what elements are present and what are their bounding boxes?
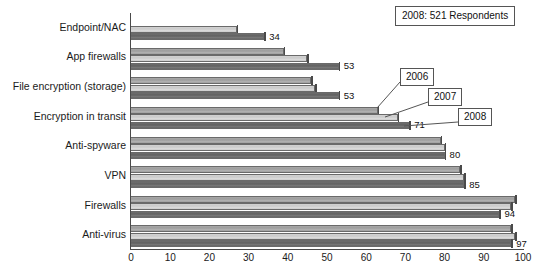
bar-row: 97 [131, 240, 524, 247]
category-axis-labels: Endpoint/NACApp firewallsFile encryption… [0, 13, 126, 250]
bar-row [131, 48, 524, 55]
bar-2007-firewalls [131, 203, 511, 210]
bar-value-label: 85 [469, 179, 480, 190]
x-tick-label: 70 [400, 252, 411, 263]
bar-value-label: 53 [344, 60, 355, 71]
respondents-title-box: 2008: 521 Respondents [395, 6, 515, 26]
bar-row [131, 26, 524, 33]
bar-row [131, 233, 524, 240]
category-label: Firewalls [0, 200, 126, 211]
bar-value-label: 34 [269, 31, 280, 42]
x-tick-label: 40 [282, 252, 293, 263]
bar-chart: Endpoint/NACApp firewallsFile encryption… [0, 0, 555, 266]
bar-row [131, 77, 524, 84]
x-tick-label: 10 [165, 252, 176, 263]
x-tick-label: 30 [243, 252, 254, 263]
bar-row: 34 [131, 33, 524, 40]
x-tick-label: 50 [321, 252, 332, 263]
x-tick-label: 20 [204, 252, 215, 263]
bar-row [131, 203, 524, 210]
bar-end-cap [499, 210, 501, 219]
bar-2007-app-firewalls [131, 55, 307, 62]
bar-2008-firewalls [131, 211, 499, 218]
bar-2008-endpoint-nac [131, 33, 264, 40]
x-tick-label: 80 [439, 252, 450, 263]
bar-value-label: 94 [504, 208, 515, 219]
bar-2008-app-firewalls [131, 63, 339, 70]
category-label: App firewalls [0, 51, 126, 62]
bar-2008-vpn [131, 181, 464, 188]
bar-2006-encryption-in-transit [131, 107, 378, 114]
bar-row [131, 225, 524, 232]
bar-2007-file-encryption-storage [131, 85, 315, 92]
callout-2008: 2008 [458, 108, 492, 126]
bar-end-cap [511, 239, 513, 248]
bar-2006-vpn [131, 166, 460, 173]
bar-2007-encryption-in-transit [131, 114, 398, 121]
bar-2006-anti-spyware [131, 137, 441, 144]
x-tick-label: 90 [478, 252, 489, 263]
bar-2006-firewalls [131, 196, 515, 203]
bar-2008-encryption-in-transit [131, 122, 409, 129]
bar-2006-anti-virus [131, 225, 511, 232]
callout-2007: 2007 [428, 88, 462, 106]
bar-value-label: 71 [414, 119, 425, 130]
bar-row [131, 196, 524, 203]
bar-end-cap [445, 151, 447, 160]
bar-row [131, 85, 524, 92]
bar-row: 94 [131, 211, 524, 218]
bar-2006-file-encryption-storage [131, 77, 311, 84]
bar-value-label: 80 [450, 149, 461, 160]
bar-2007-endpoint-nac [131, 26, 237, 33]
bar-end-cap [339, 62, 341, 71]
bar-end-cap [339, 91, 341, 100]
bar-row: 53 [131, 63, 524, 70]
bar-value-label: 97 [516, 238, 527, 249]
bar-2006-app-firewalls [131, 48, 284, 55]
bar-2007-vpn [131, 174, 464, 181]
x-axis: 0102030405060708090100 [130, 250, 524, 266]
category-label: Encryption in transit [0, 111, 126, 122]
bar-row: 80 [131, 152, 524, 159]
bar-2008-anti-virus [131, 240, 511, 247]
bar-end-cap [464, 180, 466, 189]
x-tick-label: 60 [361, 252, 372, 263]
bar-row [131, 137, 524, 144]
bar-row: 53 [131, 92, 524, 99]
bar-2007-anti-virus [131, 233, 515, 240]
x-tick-label: 0 [128, 252, 134, 263]
bar-end-cap [409, 121, 411, 130]
category-label: Anti-virus [0, 229, 126, 240]
bar-row [131, 144, 524, 151]
category-label: File encryption (storage) [0, 81, 126, 92]
category-label: Anti-spyware [0, 140, 126, 151]
bar-row: 85 [131, 181, 524, 188]
bar-row [131, 55, 524, 62]
bar-end-cap [264, 32, 266, 41]
bar-2008-anti-spyware [131, 152, 445, 159]
category-label: Endpoint/NAC [0, 22, 126, 33]
bar-value-label: 53 [344, 90, 355, 101]
bar-2007-anti-spyware [131, 144, 445, 151]
category-label: VPN [0, 170, 126, 181]
plot-area: 3453537180859497 [130, 13, 524, 250]
x-tick-label: 100 [515, 252, 532, 263]
bar-2008-file-encryption-storage [131, 92, 339, 99]
callout-2006: 2006 [400, 68, 434, 86]
